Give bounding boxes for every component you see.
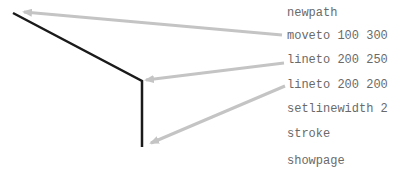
code-line-setlinewidth: setlinewidth 2 (287, 102, 388, 116)
code-line-stroke: stroke (287, 127, 330, 141)
drawn-path-line (13, 13, 142, 147)
code-line-lineto-1: lineto 200 250 (287, 53, 388, 67)
arrow-icon (151, 86, 285, 143)
code-line-showpage: showpage (287, 154, 345, 168)
postscript-path-diagram: newpath moveto 100 300 lineto 200 250 li… (0, 0, 401, 178)
code-line-newpath: newpath (287, 6, 337, 20)
code-line-lineto-2: lineto 200 200 (287, 78, 388, 92)
annotation-arrows (24, 12, 285, 143)
code-line-moveto: moveto 100 300 (287, 29, 388, 43)
arrow-icon (24, 12, 282, 35)
arrow-icon (146, 63, 284, 80)
